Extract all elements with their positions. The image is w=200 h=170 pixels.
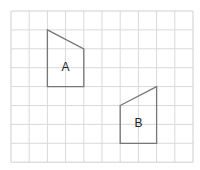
grid-lines: [11, 11, 193, 162]
grid-diagram: AB: [0, 0, 200, 170]
shape-label-a: A: [62, 60, 70, 74]
shape-label-b: B: [134, 116, 142, 130]
